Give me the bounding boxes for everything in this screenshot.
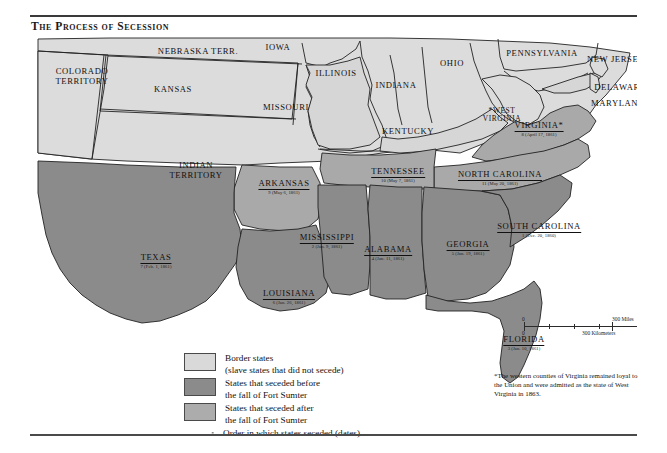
legend-item-border-states: Border states (slave states that did not… [184,352,454,376]
legend-item-seceded-after: States that seceded after the fall of Fo… [184,402,454,426]
region-mississippi [318,185,370,295]
scale-km-zero: 0 [522,330,525,336]
legend-label-seceded-after: States that seceded after the fall of Fo… [225,402,314,426]
legend-swatch-border-states [184,353,216,371]
region-tennessee [320,149,436,189]
scale-miles-max: 300 Miles [612,316,634,322]
legend: Border states (slave states that did not… [184,352,454,441]
scale-km-max: 300 Kilometers [582,330,615,336]
page-title: The Process of Secession [31,20,169,32]
region-louisiana [236,225,330,311]
footnote-west-virginia: *The western counties of Virginia remain… [494,371,644,398]
region-alabama [368,185,426,299]
title-top-rule [30,15,637,17]
region-arkansas [234,165,322,231]
scale-miles-zero: 0 [522,316,525,322]
scale-bar-line [524,326,637,327]
legend-label-seceded-before: States that seceded before the fall of F… [225,377,320,401]
region-georgia [422,187,514,301]
map-figure: The Process of Secession [0,0,667,453]
legend-label-border-states: Border states (slave states that did not… [225,352,344,376]
legend-swatch-seceded-after [184,403,216,421]
bottom-rule [30,434,637,436]
scale-bar: 0 300 Miles 0 300 Kilometers [520,311,637,351]
legend-swatch-seceded-before [184,378,216,396]
legend-item-seceded-before: States that seceded before the fall of F… [184,377,454,401]
region-texas [38,161,242,323]
